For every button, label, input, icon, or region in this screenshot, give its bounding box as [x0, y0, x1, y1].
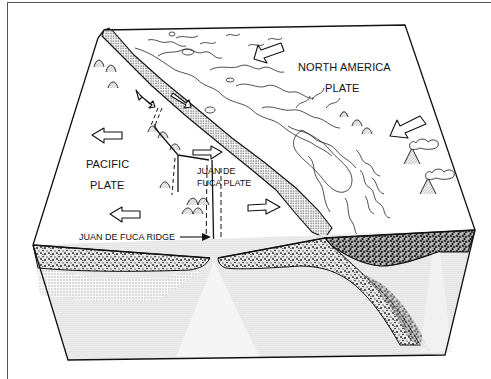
label-juan-de-fuca: JUAN DE — [197, 166, 236, 176]
label-pacific-plate: PLATE — [90, 179, 125, 191]
cascadia-block-diagram: NORTH AMERICA PLATE PACIFIC PLATE JUAN D… — [0, 0, 491, 379]
label-juan-de-fuca-plate: FUCA PLATE — [197, 178, 251, 188]
label-pacific: PACIFIC — [86, 158, 129, 170]
label-north-america-plate: PLATE — [325, 82, 360, 94]
label-north-america: NORTH AMERICA — [298, 61, 391, 73]
label-juan-de-fuca-ridge: JUAN DE FUCA RIDGE — [79, 232, 175, 242]
cross-section — [33, 230, 475, 360]
